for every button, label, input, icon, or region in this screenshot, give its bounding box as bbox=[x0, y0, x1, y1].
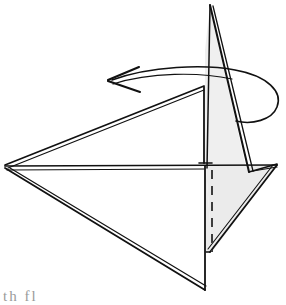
upper-left-wing-face bbox=[5, 87, 204, 167]
rotation-arrowhead-lower bbox=[108, 81, 140, 92]
caption-fragment: th fl bbox=[3, 288, 38, 305]
central-fold-line-outer bbox=[5, 165, 277, 166]
